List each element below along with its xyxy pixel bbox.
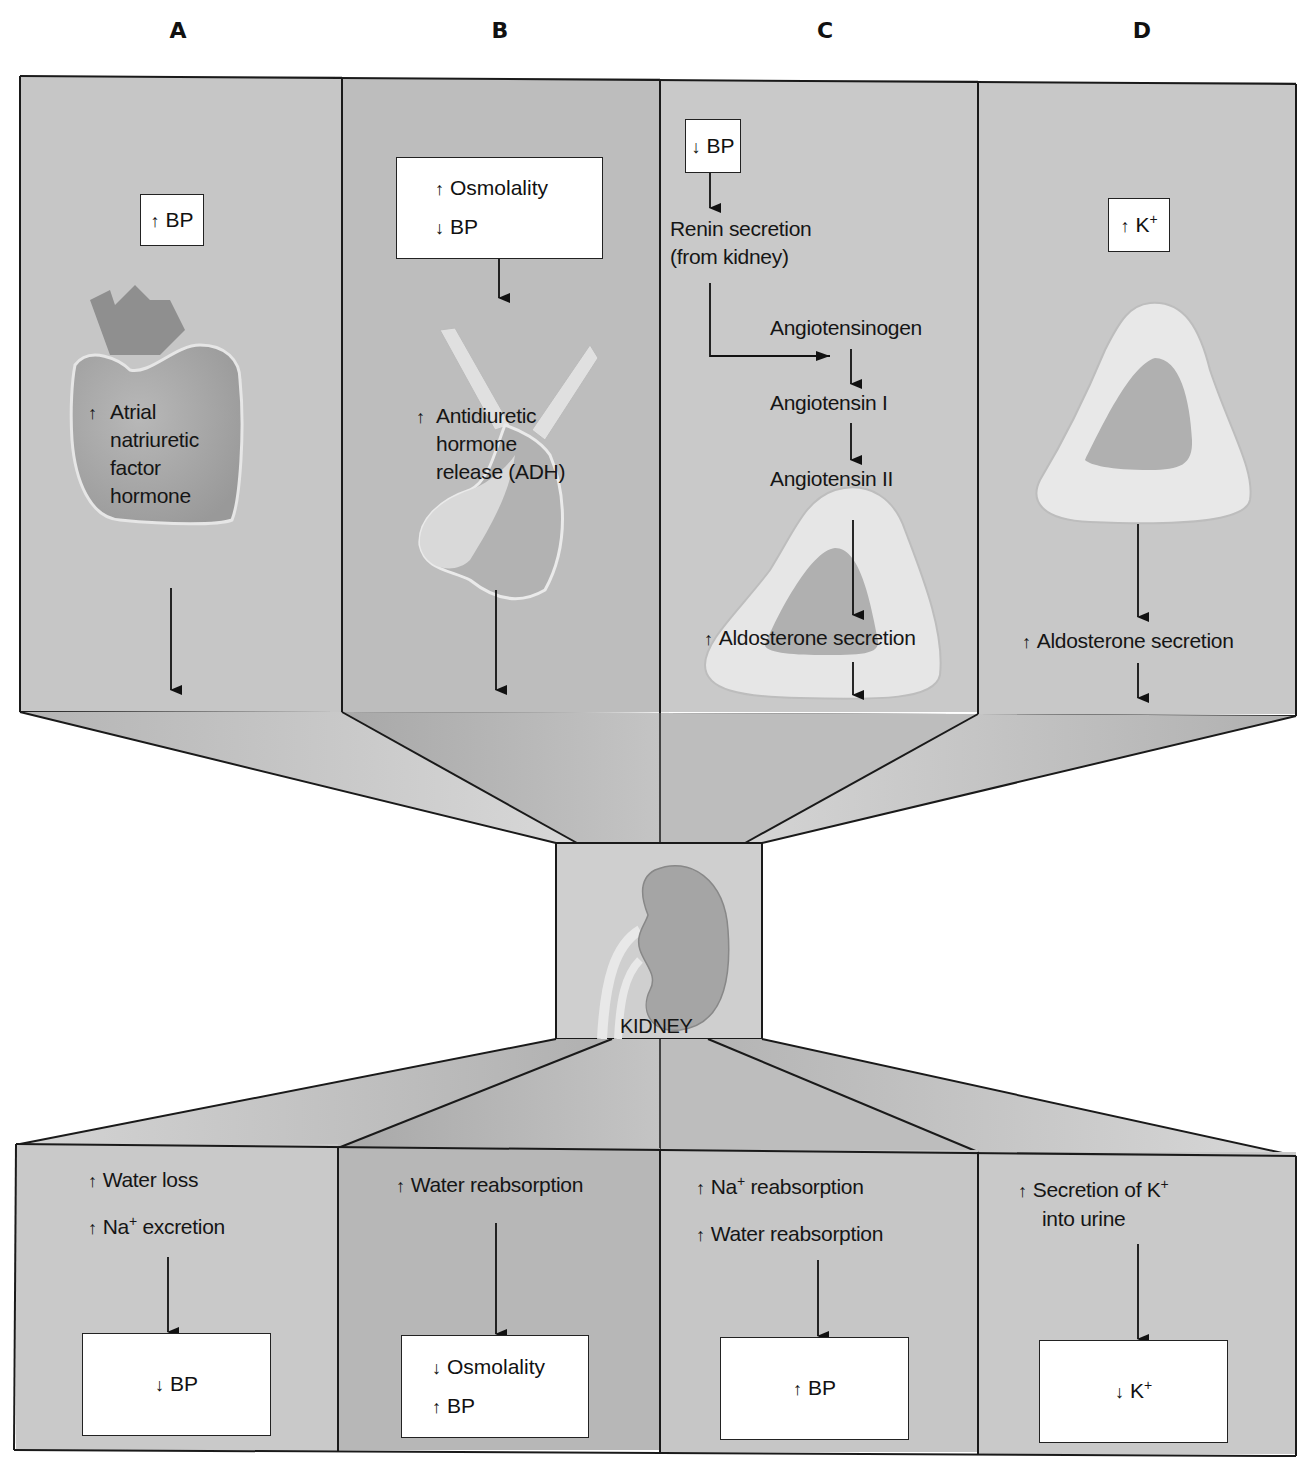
arrow-up-icon: ↑ <box>396 1176 405 1196</box>
arrow-down-icon: ↓ <box>435 218 444 238</box>
angiotensinogen-label: Angiotensinogen <box>770 314 922 342</box>
effect-d-2: into urine <box>1042 1205 1125 1233</box>
hormone-arrow-b: ↑ <box>416 402 431 431</box>
arrow-up-icon: ↑ <box>150 211 159 231</box>
arrow-up-icon: ↑ <box>88 1171 97 1191</box>
arrow-down-icon: ↓ <box>155 1375 164 1395</box>
arrow-down-icon: ↓ <box>1115 1382 1124 1402</box>
trigger-box-d: ↑K+ <box>1108 198 1170 252</box>
lower-funnel <box>20 1039 1296 1156</box>
renin-secretion-label: Renin secretion (from kidney) <box>670 215 811 271</box>
arrow-up-icon: ↑ <box>696 1225 705 1245</box>
angiotensin-ii-label: Angiotensin II <box>770 465 893 493</box>
arrow-up-icon: ↑ <box>696 1178 705 1198</box>
arrow-up-icon: ↑ <box>88 403 97 423</box>
arrow-down-icon: ↓ <box>432 1358 441 1378</box>
arrow-up-icon: ↑ <box>88 1218 97 1238</box>
trigger-box-b: ↑Osmolality ↓BP <box>396 157 603 259</box>
arrow-up-icon: ↑ <box>416 407 425 427</box>
arrow-up-icon: ↑ <box>1018 1181 1027 1201</box>
outcome-box-b: ↓Osmolality ↑BP <box>401 1335 589 1438</box>
kidney-label: KIDNEY <box>620 1012 693 1040</box>
arrow-up-icon: ↑ <box>704 629 713 649</box>
outcome-box-c: ↑BP <box>720 1337 909 1440</box>
aldosterone-label-c: ↑Aldosterone secretion <box>704 624 916 653</box>
hormone-text-b: Antidiuretic hormone release (ADH) <box>436 402 565 486</box>
upper-funnel <box>20 712 1296 843</box>
aldosterone-label-d: ↑Aldosterone secretion <box>1022 627 1234 656</box>
effect-c-1: ↑Na+ reabsorption <box>696 1173 864 1202</box>
hormone-text-a: Atrial natriuretic factor hormone <box>110 398 199 510</box>
arrow-up-icon: ↑ <box>432 1397 441 1417</box>
outcome-box-a: ↓BP <box>82 1333 271 1436</box>
angiotensin-i-label: Angiotensin I <box>770 389 888 417</box>
hormone-label-a: ↑ <box>88 398 103 427</box>
effect-c-2: ↑Water reabsorption <box>696 1220 883 1249</box>
arrow-up-icon: ↑ <box>1022 632 1031 652</box>
effect-b-1: ↑Water reabsorption <box>396 1171 583 1200</box>
arrow-down-icon: ↓ <box>691 137 700 157</box>
arrow-up-icon: ↑ <box>435 179 444 199</box>
arrow-up-icon: ↑ <box>793 1379 802 1399</box>
arrow-up-icon: ↑ <box>1120 216 1129 236</box>
effect-a-2: ↑Na+ excretion <box>88 1213 225 1242</box>
trigger-box-c: ↓BP <box>685 119 741 173</box>
effect-a-1: ↑Water loss <box>88 1166 198 1195</box>
effect-d-1: ↑Secretion of K+ <box>1018 1176 1168 1205</box>
outcome-box-d: ↓K+ <box>1039 1340 1228 1443</box>
trigger-box-a: ↑BP <box>140 194 204 246</box>
kidney-box <box>556 843 762 1039</box>
